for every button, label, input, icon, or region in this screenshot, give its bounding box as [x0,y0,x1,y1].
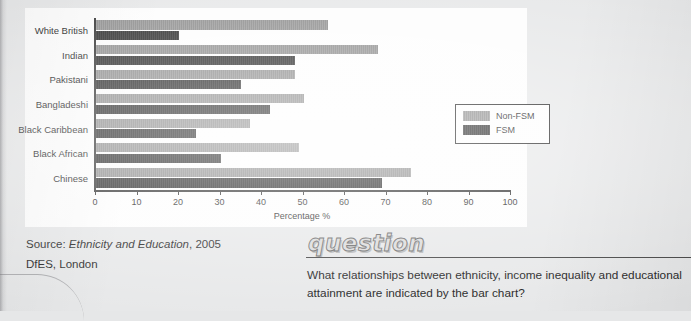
category-label-black-african: Black African [33,148,88,159]
category-label-black-caribbean: Black Caribbean [18,123,88,134]
question-text: What relationships between ethnicity, in… [307,267,685,302]
category-label-indian: Indian [62,49,88,60]
source-prefix: Source: [26,238,69,250]
legend-swatch-non-fsm [463,111,490,121]
x-axis-line [94,190,510,192]
category-label-white-british: White British [35,25,88,36]
question-divider [306,257,691,258]
x-tick-label: 0 [92,197,97,207]
bar-non-fsm-bangladeshi [96,94,304,103]
chart-plot-area: 0102030405060708090100 White BritishIndi… [25,8,527,227]
x-tick-label: 100 [502,197,517,207]
source-line-2: DfES, London [26,254,221,274]
legend-label-non-fsm: Non-FSM [496,111,535,121]
bar-fsm-bangladeshi [96,105,270,114]
source-year: , 2005 [189,238,221,250]
question-section: question What relationships between ethn… [306,231,691,311]
bar-non-fsm-black-caribbean [96,119,250,128]
x-tick-label: 70 [380,197,390,207]
category-label-chinese: Chinese [53,172,88,183]
bar-fsm-black-caribbean [96,129,196,138]
legend-swatch-fsm [463,125,490,135]
x-tick-mark [510,190,511,195]
x-tick-label: 50 [297,197,307,207]
bar-non-fsm-indian [96,45,378,54]
legend-item-fsm: FSM [463,125,515,135]
bar-non-fsm-chinese [96,168,411,177]
legend-item-non-fsm: Non-FSM [463,111,535,121]
bar-fsm-indian [96,56,295,65]
source-title: Ethnicity and Education [69,238,189,250]
y-axis-line [94,18,96,190]
category-label-bangladeshi: Bangladeshi [36,99,88,110]
x-axis-label: Percentage % [94,211,510,221]
bar-chart: 0102030405060708090100 White BritishIndi… [94,18,509,190]
bar-fsm-black-african [96,154,221,163]
x-tick-label: 40 [256,197,266,207]
bar-fsm-white-british [96,31,179,40]
source-line-1: Source: Ethnicity and Education, 2005 [26,234,221,254]
category-label-pakistani: Pakistani [49,74,88,85]
x-tick-label: 20 [173,197,183,207]
x-tick-label: 80 [422,197,432,207]
bar-fsm-pakistani [96,80,241,89]
source-citation: Source: Ethnicity and Education, 2005 Df… [26,234,221,274]
x-tick-label: 30 [214,197,224,207]
bar-non-fsm-white-british [96,20,328,29]
legend-label-fsm: FSM [496,125,515,135]
chart-legend: Non-FSM FSM [455,104,550,144]
question-heading: question [308,231,425,256]
x-tick-label: 10 [131,197,141,207]
x-tick-label: 90 [463,197,473,207]
page-left-edge-shadow [0,0,7,311]
bar-fsm-chinese [96,178,382,187]
page-corner-curl [0,274,84,321]
bar-non-fsm-pakistani [96,70,295,79]
bar-non-fsm-black-african [96,143,299,152]
x-tick-label: 60 [339,197,349,207]
chart-panel: 0102030405060708090100 White BritishIndi… [25,8,527,227]
